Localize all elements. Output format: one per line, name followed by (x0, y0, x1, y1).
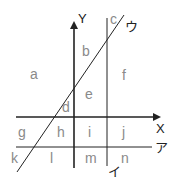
region-m: m (85, 150, 97, 166)
region-f: f (122, 67, 126, 83)
vertical-line-label: イ (108, 164, 121, 179)
region-c: c (110, 11, 117, 27)
diagonal-line-label: ウ (125, 19, 138, 34)
region-h: h (57, 124, 65, 140)
x-axis-label: X (156, 121, 165, 136)
region-l: l (50, 150, 53, 166)
y-axis-arrow-icon (70, 21, 78, 29)
region-diagram: Y X ア イ ウ a b c d e f g h i j k l m n (0, 0, 179, 185)
x-axis-arrow-icon (153, 113, 161, 121)
region-d: d (62, 99, 70, 115)
region-j: j (121, 124, 125, 140)
region-a: a (30, 66, 38, 82)
region-i: i (88, 124, 91, 140)
region-e: e (85, 86, 93, 102)
y-axis-label: Y (78, 11, 87, 26)
diagonal-line-u (17, 15, 124, 172)
region-k: k (11, 150, 19, 166)
region-n: n (121, 150, 129, 166)
region-b: b (82, 43, 90, 59)
horizontal-line-label: ア (155, 140, 168, 155)
region-g: g (18, 124, 26, 140)
